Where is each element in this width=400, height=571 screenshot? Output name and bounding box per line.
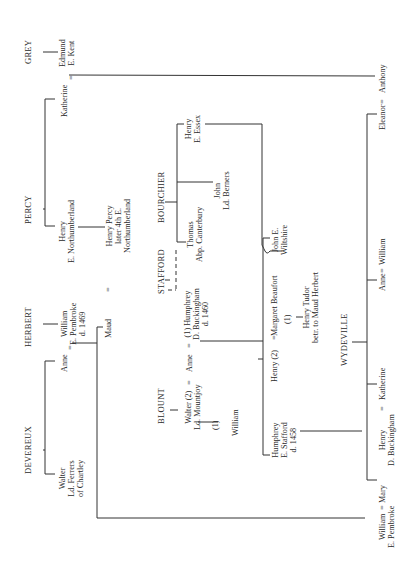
family-tree-diagram: GREY PERCY HERBERT DEVEREUX BOURCHIER ST… <box>0 0 400 571</box>
family-blount: BLOUNT <box>157 388 166 424</box>
family-stafford: STAFFORD <box>157 249 166 294</box>
family-wydeville: WYDEVILLE <box>340 314 349 366</box>
person-henry-northumberland: Henry E. Northumberland <box>58 200 76 263</box>
person-anthony: Anthony <box>378 64 387 93</box>
person-henry-stafford: Henry (2) <box>270 350 279 382</box>
person-humphrey-buckingham: (1) Humphrey D. Buckingham d. 1460 <box>183 288 210 340</box>
family-herbert: HERBERT <box>24 307 33 347</box>
person-mary: Mary <box>378 485 387 503</box>
beaufort-issue-marker: (1) <box>283 314 292 324</box>
person-henry-buckingham: Henry D. Buckingham <box>378 414 396 466</box>
person-edmund-kent: Edmund E. Kent <box>58 39 76 67</box>
marriage-symbol: = <box>378 406 387 411</box>
marriage-symbol: = <box>185 343 194 348</box>
person-anne-devereux: Anne <box>60 354 69 372</box>
person-thomas-canterbury: Thomas Abp. Canterbury <box>186 207 204 262</box>
person-humphrey-stafford: Humphrey E. Stafford d. 1458 <box>271 422 298 458</box>
person-eleanor: Eleanor <box>378 105 387 130</box>
person-katherine-grey: Katherine <box>60 85 69 117</box>
marriage-symbol: = <box>378 268 387 273</box>
marriage-symbol: = <box>67 75 76 80</box>
person-walter-mountjoy: Walter (2) Ld. Mountjoy <box>184 385 202 431</box>
family-devereux: DEVEREUX <box>24 426 33 474</box>
family-percy: PERCY <box>24 195 33 224</box>
person-henry-percy-4th-earl: Henry Percy later 4th E. Northumberland <box>105 199 132 253</box>
person-william-herbert: William E. Pembroke d. 1469 <box>60 303 87 345</box>
marriage-symbol: = <box>378 99 387 104</box>
marriage-symbol: = <box>104 287 113 292</box>
person-william-bourchier: William <box>378 238 387 265</box>
person-anne-wydeville: Anne <box>378 273 387 291</box>
person-henry-essex: Henry E. Essex <box>184 115 202 143</box>
blount-issue-marker: (1) <box>211 420 220 430</box>
person-maud: Maud <box>104 319 113 338</box>
person-walter-ferrers: Walter Ld. Ferrers of Chartley <box>58 460 85 497</box>
person-katherine-wydeville: Katherine <box>378 368 387 400</box>
marriage-symbol: = <box>66 345 75 350</box>
person-john-berners: John Ld. Berners <box>213 171 231 210</box>
person-john-wiltshire: John E. Wiltshire <box>271 225 289 255</box>
marriage-symbol: = <box>270 335 279 340</box>
person-william-pembroke: William E. Pembroke <box>378 506 396 548</box>
family-bourchier: BOURCHIER <box>157 172 166 223</box>
family-grey: GREY <box>24 40 33 64</box>
person-henry-tudor: Henry Tudor betr. to Maud Herbert <box>302 272 320 343</box>
person-anne-stafford: Anne <box>185 354 194 372</box>
person-william-blount: William <box>231 409 240 436</box>
person-margaret-beaufort: Margaret Beaufort <box>270 275 279 336</box>
